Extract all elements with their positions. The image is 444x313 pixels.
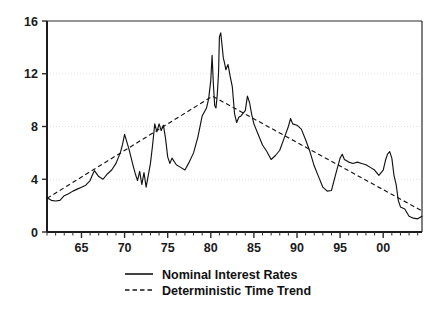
chart-legend: Nominal Interest RatesDeterministic Time… (125, 268, 311, 298)
y-tick-label-0: 0 (31, 226, 38, 240)
data-series (47, 33, 422, 219)
chart-figure: 0481216 6570758085909500 Nominal Interes… (0, 0, 444, 313)
y-tick-label-4: 4 (31, 173, 38, 187)
x-tick-label-90: 90 (290, 241, 304, 255)
line-chart: 0481216 6570758085909500 Nominal Interes… (0, 0, 444, 313)
y-tick-label-8: 8 (31, 120, 38, 134)
gridlines (47, 74, 422, 180)
x-tick-label-80: 80 (204, 241, 218, 255)
x-tick-label-65: 65 (75, 241, 89, 255)
x-tick-label-85: 85 (247, 241, 261, 255)
legend-label-0: Nominal Interest Rates (162, 268, 298, 282)
y-tick-label-12: 12 (24, 67, 38, 81)
y-axis-ticks: 0481216 (24, 15, 47, 240)
y-tick-label-16: 16 (24, 15, 38, 29)
x-tick-label-95: 95 (333, 241, 347, 255)
x-tick-label-70: 70 (118, 241, 132, 255)
x-tick-label-75: 75 (161, 241, 175, 255)
series-line-0 (47, 33, 422, 219)
x-axis-ticks: 6570758085909500 (47, 232, 418, 255)
legend-label-1: Deterministic Time Trend (162, 284, 311, 298)
x-tick-label-00: 00 (376, 241, 390, 255)
